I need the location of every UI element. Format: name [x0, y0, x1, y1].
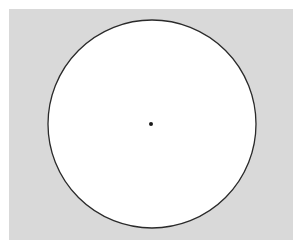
center-point: [149, 122, 153, 126]
circle-diagram: [0, 0, 304, 247]
